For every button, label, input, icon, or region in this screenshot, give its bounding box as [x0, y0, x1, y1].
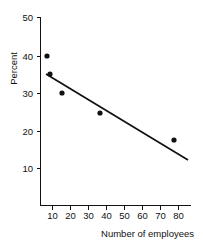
- x-axis-title: Number of employees: [101, 228, 194, 239]
- x-tick-label-10: 10: [47, 210, 58, 221]
- data-point: [97, 110, 102, 115]
- y-tick-label-20: 20: [22, 126, 33, 137]
- y-tick-label-40: 40: [22, 51, 33, 62]
- data-point: [44, 53, 49, 58]
- data-point: [47, 71, 52, 76]
- x-tick-label-60: 60: [137, 210, 148, 221]
- x-tick-label-20: 20: [65, 210, 76, 221]
- y-axis-tick-labels: 50 40 30 20 10: [22, 12, 33, 174]
- y-axis-title: Percent: [8, 52, 19, 85]
- axis-spine: [41, 18, 191, 206]
- plot-canvas: 50 40 30 20 10 10 20 30 40 50 60 70 80: [0, 0, 203, 244]
- x-axis-ticks: [53, 206, 179, 210]
- scatter-plot-figure: 50 40 30 20 10 10 20 30 40 50 60 70 80: [0, 0, 203, 244]
- y-tick-label-30: 30: [22, 88, 33, 99]
- x-axis-tick-labels: 10 20 30 40 50 60 70 80: [47, 210, 184, 221]
- x-tick-label-70: 70: [155, 210, 166, 221]
- data-point-group: [44, 53, 176, 142]
- regression-trend-line: [46, 74, 188, 160]
- data-point: [171, 137, 176, 142]
- data-point: [59, 90, 64, 95]
- x-tick-label-40: 40: [101, 210, 112, 221]
- x-tick-label-80: 80: [173, 210, 184, 221]
- y-tick-label-50: 50: [22, 12, 33, 23]
- x-tick-label-30: 30: [83, 210, 94, 221]
- x-tick-label-50: 50: [119, 210, 130, 221]
- y-tick-label-10: 10: [22, 163, 33, 174]
- y-axis-ticks: [37, 18, 41, 169]
